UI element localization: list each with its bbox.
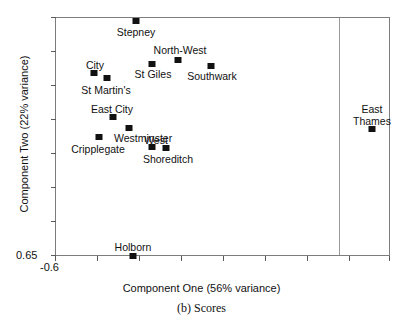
x-axis-tick	[265, 256, 266, 261]
scores-scatter-figure: Stepney North-West St Giles Southwark Ci…	[0, 0, 403, 326]
x-axis-tick	[307, 256, 308, 261]
y-axis-tick	[51, 221, 56, 222]
x-axis-tick	[389, 256, 390, 261]
y-axis-tick	[51, 85, 56, 86]
x-axis-tick-label: -0.6	[40, 261, 59, 273]
x-axis-tick	[97, 256, 98, 261]
point-label-southwark: Southwark	[187, 70, 237, 82]
point-label-north-west: North-West	[154, 44, 207, 56]
point-label-holborn: Holborn	[115, 241, 152, 253]
y-axis-tick	[51, 51, 56, 52]
y-axis-tick	[51, 187, 56, 188]
figure-caption: (b) Scores	[0, 301, 403, 316]
point-label-city: City	[86, 59, 104, 71]
x-axis-title: Component One (56% variance)	[0, 282, 403, 294]
y-axis-tick	[51, 255, 56, 256]
data-point-southwark[interactable]	[208, 63, 215, 69]
data-point-cripplegate[interactable]	[96, 134, 103, 140]
x-axis-tick	[181, 256, 182, 261]
y-axis-tick	[51, 153, 56, 154]
point-label-east-thames-line2: Thames	[353, 115, 391, 127]
data-point-st-martins[interactable]	[104, 75, 111, 81]
point-label-cripplegate: Cripplegate	[71, 143, 125, 155]
data-point-holborn[interactable]	[130, 253, 137, 259]
y-axis-tick	[51, 119, 56, 120]
y-axis-tick	[51, 17, 56, 18]
point-label-east-thames-line1: East	[361, 103, 382, 115]
point-label-west: West	[144, 134, 168, 146]
x-axis-tick	[139, 256, 140, 261]
data-point-stepney[interactable]	[133, 18, 140, 24]
point-label-st-giles: St Giles	[135, 68, 172, 80]
point-label-stepney: Stepney	[117, 26, 156, 38]
x-axis-tick	[349, 256, 350, 261]
data-point-st-giles[interactable]	[149, 61, 156, 67]
y-axis-tick-label: 0.65	[16, 249, 37, 261]
point-label-st-martins: St Martin's	[81, 84, 130, 96]
point-label-shoreditch: Shoreditch	[143, 153, 193, 165]
x-axis-tick	[223, 256, 224, 261]
vertical-reference-line	[339, 18, 340, 255]
plot-area	[55, 17, 390, 256]
point-label-east-city: East City	[91, 103, 133, 115]
data-point-north-west[interactable]	[175, 57, 182, 63]
data-point-westminster[interactable]	[126, 125, 133, 131]
y-axis-title: Component Two (22% variance)	[18, 24, 30, 244]
